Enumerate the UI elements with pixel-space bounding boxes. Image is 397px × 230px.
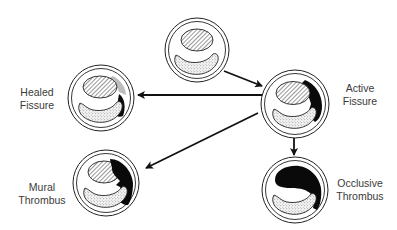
lipid-core xyxy=(181,29,213,51)
node-mural-thrombus xyxy=(73,150,139,216)
node-normal xyxy=(165,18,229,82)
arrow-normal-to-active xyxy=(224,71,262,86)
lipid-core xyxy=(276,82,310,105)
label-occlusive-thrombus: Occlusive Thrombus xyxy=(332,177,388,202)
label-mural-thrombus: Mural Thrombus xyxy=(15,181,69,206)
label-active-fissure: Active Fissure xyxy=(337,82,383,107)
node-healed-fissure xyxy=(68,65,134,131)
label-healed-fissure: Healed Fissure xyxy=(14,86,60,111)
lipid-core xyxy=(83,76,117,98)
node-active-fissure xyxy=(261,70,329,138)
node-occlusive-thrombus xyxy=(262,157,328,223)
arrow-active-to-mural xyxy=(146,113,258,168)
